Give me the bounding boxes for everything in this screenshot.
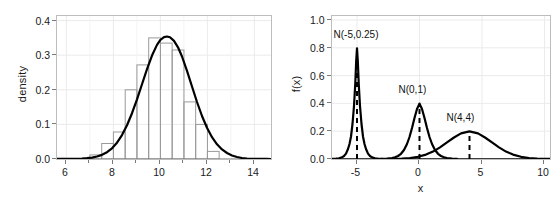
right-panel-densities: f(x) 0.0 0.2 0.4 0.6 0.8 1.0	[279, 0, 557, 202]
left-xtick-mark-3	[206, 160, 207, 164]
left-xtick-4: 14	[238, 166, 268, 178]
right-xtick-mark-3	[543, 160, 544, 164]
histogram-bar	[160, 43, 172, 159]
left-xtick-mark-2	[159, 160, 160, 164]
left-panel-histogram: density 0.0 0.1 0.2 0.3 0.4	[0, 0, 279, 202]
left-xtick-mark-minor-0	[88, 160, 89, 163]
left-xtick-3: 12	[191, 166, 221, 178]
right-xtick-mark-1	[418, 160, 419, 164]
density-annotation-n-minus5: N(-5,0.25)	[334, 29, 379, 40]
right-ytick-3: 0.6	[293, 70, 325, 82]
histogram-bar	[196, 124, 208, 159]
left-ytick-3: 0.3	[18, 49, 50, 61]
left-xtick-mark-4	[253, 160, 254, 164]
right-ytick-0: 0.0	[293, 153, 325, 165]
left-ytick-4: 0.4	[18, 15, 50, 27]
right-xtick-mark-0	[356, 160, 357, 164]
density-annotation-n-0: N(0,1)	[399, 84, 427, 95]
left-xtick-mark-minor-1	[135, 160, 136, 163]
left-xtick-mark-1	[112, 160, 113, 164]
right-xtick-3: 10	[528, 166, 557, 178]
left-xtick-1: 8	[97, 166, 127, 178]
left-ytick-1: 0.1	[18, 118, 50, 130]
right-x-axis-label: x	[411, 182, 431, 194]
two-panel-statistics-figure: density 0.0 0.1 0.2 0.3 0.4	[0, 0, 557, 202]
left-plot-svg	[57, 16, 272, 160]
right-ytick-4: 0.8	[293, 42, 325, 54]
right-xtick-mark-2	[481, 160, 482, 164]
histogram-bar	[184, 102, 196, 159]
left-xtick-2: 10	[144, 166, 174, 178]
right-xtick-2: 5	[466, 166, 496, 178]
left-xtick-mark-0	[65, 160, 66, 164]
density-annotation-n-4: N(4,4)	[447, 112, 475, 123]
left-ytick-2: 0.2	[18, 84, 50, 96]
right-xtick-1: 0	[403, 166, 433, 178]
left-plot-area	[56, 15, 272, 160]
right-ytick-2: 0.4	[293, 97, 325, 109]
histogram-bar	[207, 151, 219, 159]
right-ytick-1: 0.2	[293, 125, 325, 137]
left-ytick-0: 0.0	[18, 153, 50, 165]
left-xtick-0: 6	[50, 166, 80, 178]
histogram-bar	[172, 50, 184, 159]
density-curve-n-4	[394, 131, 551, 159]
left-xtick-mark-minor-2	[182, 160, 183, 163]
right-xtick-0: -5	[341, 166, 371, 178]
right-ytick-5: 1.0	[293, 14, 325, 26]
left-xtick-mark-minor-3	[229, 160, 230, 163]
histogram-bar	[149, 38, 161, 159]
histogram-bars	[90, 38, 219, 159]
